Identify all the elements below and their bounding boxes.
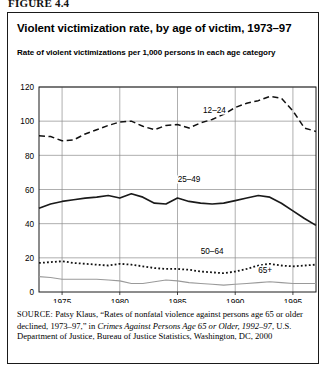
source-publication-title: Crimes Against Persons Age 65 or Older, … [97, 321, 271, 331]
y-axis-tick-label: 0 [29, 288, 34, 297]
y-axis-tick-label: 20 [25, 254, 35, 263]
x-axis-tick-label: 1990 [226, 298, 245, 303]
source-note: SOURCE: Patsy Klaus, “Rates of nonfatal … [17, 309, 313, 342]
x-axis-tick-label: 1995 [284, 298, 303, 303]
line-chart: 0204060801001201975198019851990199512–24… [8, 63, 320, 303]
chart-title: Violent victimization rate, by age of vi… [17, 22, 309, 35]
y-axis-tick-label: 100 [20, 117, 34, 126]
x-axis-tick-label: 1980 [111, 298, 130, 303]
figure-number: FIGURE 4.4 [8, 0, 69, 9]
source-label: SOURCE: [17, 310, 53, 319]
y-axis-tick-label: 60 [25, 186, 35, 195]
series-label-25-49: 25–49 [178, 175, 201, 184]
y-axis-tick-label: 120 [20, 83, 34, 92]
x-axis-tick-label: 1975 [53, 298, 72, 303]
x-axis-tick-label: 1985 [168, 298, 187, 303]
series-label-65-: 65+ [258, 266, 272, 275]
y-axis-tick-label: 40 [25, 220, 35, 229]
series-label-50-64: 50–64 [201, 247, 224, 256]
plot-area: 0204060801001201975198019851990199512–24… [8, 63, 320, 303]
figure-container: Violent victimization rate, by age of vi… [7, 12, 319, 364]
series-label-12-24: 12–24 [203, 106, 226, 115]
chart-subtitle: Rate of violent victimizations per 1,000… [17, 48, 313, 58]
figure-page: FIGURE 4.4 Violent victimization rate, b… [0, 0, 326, 371]
y-axis-tick-label: 80 [25, 152, 35, 161]
